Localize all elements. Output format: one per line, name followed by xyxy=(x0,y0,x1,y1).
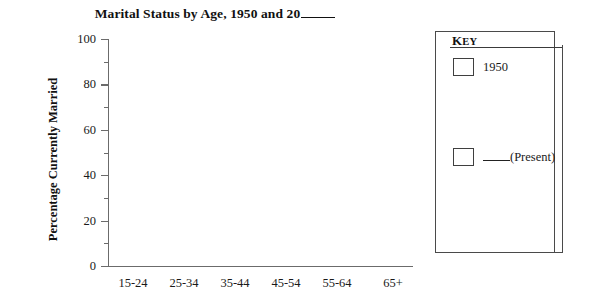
y-tick-label-80: 80 xyxy=(56,77,96,92)
legend-heading-first: K xyxy=(452,33,462,48)
y-tick-label-20: 20 xyxy=(56,214,96,229)
y-tick-40 xyxy=(101,175,109,176)
y-axis-tick-labels: 100 80 60 40 20 0 xyxy=(54,0,96,307)
legend-item-present[interactable]: (Present) xyxy=(453,148,555,166)
y-tick-70 xyxy=(104,107,109,108)
y-tick-50 xyxy=(104,153,109,154)
legend-label-1950: 1950 xyxy=(483,60,508,75)
legend-swatch-present[interactable] xyxy=(453,148,474,166)
y-tick-20 xyxy=(101,221,109,222)
y-tick-label-60: 60 xyxy=(56,123,96,138)
legend-label-present: (Present) xyxy=(483,150,555,165)
y-tick-10 xyxy=(104,243,109,244)
legend-label-present-suffix: (Present) xyxy=(510,150,555,164)
y-tick-100 xyxy=(101,39,109,40)
y-tick-label-0: 0 xyxy=(56,259,96,274)
y-tick-label-100: 100 xyxy=(56,32,96,47)
x-tick-label-55-64: 55-64 xyxy=(307,276,367,291)
x-axis-tick-labels: 15-24 25-34 35-44 45-54 55-64 65+ xyxy=(108,276,413,296)
x-tick-label-65plus: 65+ xyxy=(363,276,423,291)
legend-swatch-1950[interactable] xyxy=(453,58,474,76)
y-tick-0 xyxy=(101,266,109,267)
x-axis-line xyxy=(108,266,413,267)
chart-plot-area: Percentage Currently Married 100 80 60 4… xyxy=(0,0,430,307)
y-tick-60 xyxy=(101,130,109,131)
y-tick-80 xyxy=(101,84,109,85)
legend-item-1950[interactable]: 1950 xyxy=(453,58,508,76)
legend-heading-rule xyxy=(450,47,562,48)
legend-heading-rest: EY xyxy=(462,36,477,47)
y-tick-90 xyxy=(104,62,109,63)
y-tick-30 xyxy=(104,198,109,199)
legend-blank-line xyxy=(483,151,510,161)
y-tick-label-40: 40 xyxy=(56,168,96,183)
